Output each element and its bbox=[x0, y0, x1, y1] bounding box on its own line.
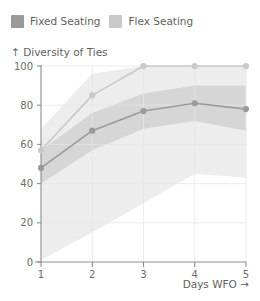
x-tick-label-1: 1 bbox=[38, 269, 44, 280]
data-point-fixed-seating-x3[interactable] bbox=[140, 108, 146, 114]
data-point-fixed-seating-x2[interactable] bbox=[89, 128, 95, 134]
data-point-flex-seating-x5[interactable] bbox=[243, 63, 249, 69]
y-tick-label-40: 40 bbox=[20, 178, 33, 189]
data-point-flex-seating-x3[interactable] bbox=[140, 63, 146, 69]
x-tick-label-4: 4 bbox=[192, 269, 198, 280]
y-tick-label-0: 0 bbox=[27, 257, 33, 268]
x-tick-label-2: 2 bbox=[89, 269, 95, 280]
data-point-fixed-seating-x4[interactable] bbox=[192, 100, 198, 106]
x-tick-label-5: 5 bbox=[243, 269, 249, 280]
data-point-fixed-seating-x1[interactable] bbox=[38, 165, 44, 171]
data-point-flex-seating-x1[interactable] bbox=[38, 147, 44, 153]
data-point-flex-seating-x4[interactable] bbox=[192, 63, 198, 69]
y-tick-label-80: 80 bbox=[20, 100, 33, 111]
x-tick-label-3: 3 bbox=[140, 269, 146, 280]
data-point-fixed-seating-x5[interactable] bbox=[243, 106, 249, 112]
y-tick-label-60: 60 bbox=[20, 139, 33, 150]
y-tick-label-100: 100 bbox=[14, 61, 33, 72]
y-tick-label-20: 20 bbox=[20, 217, 33, 228]
chart-svg: 02040608010012345 bbox=[0, 0, 260, 301]
data-point-flex-seating-x2[interactable] bbox=[89, 92, 95, 98]
chart-plot-area: 02040608010012345 bbox=[0, 0, 260, 301]
